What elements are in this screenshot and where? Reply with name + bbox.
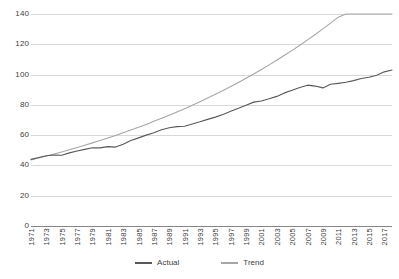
x-axis: 1971197319751977197919811983198519871989… [31, 228, 392, 258]
series-lines [31, 14, 392, 226]
series-line-actual [31, 70, 392, 159]
x-tick-label-1973: 1973 [42, 228, 51, 246]
x-tick-label-2003: 2003 [273, 228, 282, 246]
y-tick-label-20: 20 [3, 192, 29, 200]
x-tick-label-1983: 1983 [119, 228, 128, 246]
legend-label-trend: Trend [243, 258, 264, 267]
x-tick-label-1985: 1985 [135, 228, 144, 246]
x-tick-label-1989: 1989 [165, 228, 174, 246]
line-chart: 140120100806040200 197119731975197719791… [0, 0, 399, 279]
x-tick-label-1993: 1993 [196, 228, 205, 246]
x-tick-label-2007: 2007 [304, 228, 313, 246]
chart-legend: ActualTrend [0, 258, 399, 267]
x-tick-label-1971: 1971 [27, 228, 36, 246]
y-tick-label-120: 120 [3, 40, 29, 48]
x-tick-label-2011: 2011 [334, 228, 343, 245]
x-tick-label-2001: 2001 [257, 228, 266, 246]
x-tick-label-1999: 1999 [242, 228, 251, 246]
y-tick-label-100: 100 [3, 71, 29, 79]
x-tick-label-1977: 1977 [73, 228, 82, 246]
x-tick-label-2015: 2015 [365, 228, 374, 246]
x-tick-label-2017: 2017 [380, 228, 389, 246]
legend-item-trend[interactable]: Trend [221, 258, 264, 267]
y-tick-label-140: 140 [3, 10, 29, 18]
legend-swatch-actual [135, 262, 152, 264]
x-tick-label-1981: 1981 [104, 228, 113, 246]
y-tick-label-0: 0 [3, 222, 29, 230]
gridline-0 [31, 226, 392, 227]
legend-item-actual[interactable]: Actual [135, 258, 179, 267]
x-tick-label-1997: 1997 [227, 228, 236, 246]
plot-area [31, 14, 392, 226]
y-tick-label-60: 60 [3, 131, 29, 139]
x-tick-label-1987: 1987 [150, 228, 159, 246]
x-tick-label-2009: 2009 [319, 228, 328, 246]
x-tick-label-1979: 1979 [88, 228, 97, 246]
y-axis: 140120100806040200 [0, 14, 29, 226]
series-line-trend [31, 14, 392, 160]
x-tick-label-2005: 2005 [288, 228, 297, 246]
x-tick-label-2013: 2013 [350, 228, 359, 246]
y-tick-label-80: 80 [3, 101, 29, 109]
y-tick-label-40: 40 [3, 161, 29, 169]
legend-swatch-trend [221, 262, 238, 264]
x-tick-label-1995: 1995 [211, 228, 220, 246]
x-tick-label-1991: 1991 [181, 228, 190, 246]
legend-label-actual: Actual [157, 258, 179, 267]
x-tick-label-1975: 1975 [58, 228, 67, 246]
